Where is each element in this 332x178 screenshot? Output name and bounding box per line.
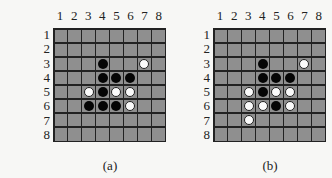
col-label: 5	[109, 8, 123, 24]
board-cell	[55, 30, 67, 43]
board-cell	[298, 86, 310, 99]
board-cell	[138, 86, 150, 99]
row-label: 5	[38, 85, 50, 99]
row-label: 5	[198, 85, 210, 99]
board-cell	[215, 44, 227, 57]
board-grid	[213, 28, 326, 142]
white-piece-icon	[285, 101, 295, 111]
board-cell	[228, 100, 240, 113]
board-cell	[152, 114, 164, 127]
board-cell	[124, 44, 136, 57]
board-cell	[298, 44, 310, 57]
board-cell	[270, 44, 282, 57]
board-cell	[215, 58, 227, 71]
board-cell	[110, 86, 122, 99]
board-cell	[68, 128, 80, 141]
black-piece-icon	[98, 73, 108, 83]
row-label: 1	[198, 28, 210, 42]
board-cell	[124, 30, 136, 43]
board-cell	[256, 44, 268, 57]
col-label: 4	[255, 8, 269, 24]
board-cell	[124, 72, 136, 85]
board-cell	[242, 44, 254, 57]
row-label: 8	[198, 128, 210, 142]
board-cell	[215, 72, 227, 85]
board-cell	[96, 86, 108, 99]
board-cell	[110, 44, 122, 57]
board-cell	[82, 100, 94, 113]
board-cell	[82, 72, 94, 85]
board-cell	[110, 30, 122, 43]
board-cell	[110, 58, 122, 71]
col-label: 5	[269, 8, 283, 24]
white-piece-icon	[244, 87, 254, 97]
board-cell	[284, 86, 296, 99]
row-label: 7	[198, 114, 210, 128]
board-cell	[270, 86, 282, 99]
board-cell	[96, 58, 108, 71]
board-cell	[242, 128, 254, 141]
board-cell	[152, 128, 164, 141]
board-cell	[68, 100, 80, 113]
board-cell	[124, 114, 136, 127]
black-piece-icon	[111, 73, 121, 83]
board-cell	[256, 58, 268, 71]
board-cell	[152, 100, 164, 113]
board-cell	[138, 100, 150, 113]
board-cell	[96, 128, 108, 141]
black-piece-icon	[271, 101, 281, 111]
board-cell	[256, 86, 268, 99]
board-cell	[215, 30, 227, 43]
board-cell	[270, 100, 282, 113]
board-cell	[298, 114, 310, 127]
board-cell	[298, 72, 310, 85]
board-cell	[256, 30, 268, 43]
col-label: 2	[67, 8, 81, 24]
board-cell	[298, 58, 310, 71]
board-cell	[256, 100, 268, 113]
white-piece-icon	[84, 87, 94, 97]
black-piece-icon	[98, 59, 108, 69]
board-cell	[68, 114, 80, 127]
board-cell	[242, 58, 254, 71]
row-labels: 1 2 3 4 5 6 7 8	[198, 28, 210, 142]
black-piece-icon	[258, 87, 268, 97]
board-cell	[228, 114, 240, 127]
board-cell	[284, 72, 296, 85]
board-cell	[68, 44, 80, 57]
board-cell	[284, 128, 296, 141]
board-cell	[138, 72, 150, 85]
board-cell	[96, 100, 108, 113]
board-cell	[96, 44, 108, 57]
col-label: 6	[123, 8, 137, 24]
board-cell	[55, 72, 67, 85]
black-piece-icon	[84, 101, 94, 111]
col-label: 7	[138, 8, 152, 24]
board-cell	[242, 72, 254, 85]
board-cell	[138, 128, 150, 141]
board-cell	[256, 72, 268, 85]
board-cell	[152, 30, 164, 43]
white-piece-icon	[244, 101, 254, 111]
col-label: 8	[152, 8, 166, 24]
black-piece-icon	[258, 59, 268, 69]
board-cell	[68, 58, 80, 71]
board-cell	[312, 114, 324, 127]
col-label: 8	[312, 8, 326, 24]
row-label: 3	[198, 57, 210, 71]
row-label: 2	[198, 42, 210, 56]
black-piece-icon	[98, 87, 108, 97]
board-cell	[138, 30, 150, 43]
board-cell	[298, 30, 310, 43]
white-piece-icon	[285, 87, 295, 97]
col-label: 7	[298, 8, 312, 24]
board-cell	[152, 58, 164, 71]
board-cell	[152, 44, 164, 57]
white-piece-icon	[299, 59, 309, 69]
caption-b: (b)	[250, 158, 290, 174]
row-label: 1	[38, 28, 50, 42]
black-piece-icon	[111, 101, 121, 111]
board-cell	[96, 72, 108, 85]
board-cell	[96, 114, 108, 127]
board-cell	[228, 86, 240, 99]
